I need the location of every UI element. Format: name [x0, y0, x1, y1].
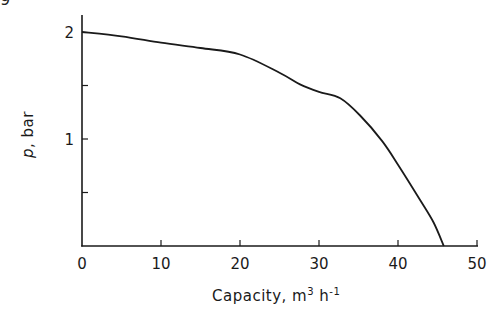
axes	[81, 15, 478, 247]
x-tick-label: 30	[309, 255, 328, 273]
y-tick-label: 1	[64, 131, 74, 149]
pump-curve-line	[82, 32, 444, 246]
x-tick-label: 40	[388, 255, 407, 273]
y-tick-label: 2	[64, 24, 74, 42]
x-axis-label: Capacity, m3 h-1	[212, 286, 340, 305]
y-axis-label: p, bar	[19, 111, 37, 159]
pump-curve-chart: 0102030405012 Capacity, m3 h-1 p, bar	[0, 0, 501, 320]
x-tick-label: 10	[151, 255, 170, 273]
x-tick-label: 50	[467, 255, 486, 273]
data-series	[82, 32, 444, 246]
x-tick-label: 0	[77, 255, 87, 273]
ticks: 0102030405012	[64, 24, 486, 273]
x-tick-label: 20	[230, 255, 249, 273]
